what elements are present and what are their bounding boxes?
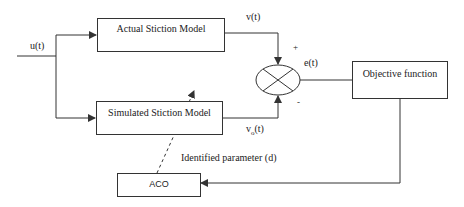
objective-function-label: Objective function bbox=[353, 68, 447, 79]
identified-parameter-label: Identified parameter (d) bbox=[181, 152, 277, 163]
aco-label: ACO bbox=[118, 179, 200, 189]
actual-stiction-model-label: Actual Stiction Model bbox=[98, 23, 224, 34]
input-label: u(t) bbox=[30, 40, 44, 51]
diagram-connections bbox=[0, 0, 464, 207]
objective-function-block: Objective function bbox=[352, 61, 448, 99]
actual-output-label: v(t) bbox=[246, 11, 260, 22]
simulated-output-label: vo(t) bbox=[246, 123, 264, 137]
actual-stiction-model-block: Actual Stiction Model bbox=[97, 18, 225, 52]
actual-output-line bbox=[225, 33, 278, 64]
simulated-output-line bbox=[223, 96, 278, 118]
error-label: e(t) bbox=[304, 57, 318, 68]
feedback-line bbox=[201, 98, 400, 183]
plus-sign: + bbox=[293, 42, 298, 52]
minus-sign: - bbox=[297, 97, 300, 107]
simulated-stiction-model-label: Simulated Stiction Model bbox=[97, 107, 222, 118]
summing-junction bbox=[256, 65, 300, 95]
aco-block: ACO bbox=[117, 173, 201, 197]
simulated-stiction-model-block: Simulated Stiction Model bbox=[96, 101, 223, 135]
